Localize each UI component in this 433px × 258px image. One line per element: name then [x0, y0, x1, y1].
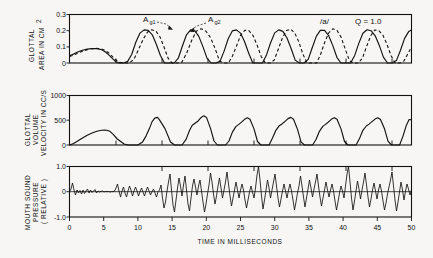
mid-ylabel-line2: VOLUME: [32, 114, 39, 145]
xtick-45: 45: [373, 224, 381, 231]
bottom-panel-ylabel: MOUTH SOUND PRESSURE ( RELATIVE ): [24, 175, 48, 230]
condition-vowel: /a/: [320, 17, 330, 26]
ag2-subscript: g2: [215, 19, 221, 25]
top-ylabel-line2: AREA IN CM: [38, 27, 45, 70]
top-ytick-0.3: 0.3: [56, 11, 66, 18]
bot-ytick-0: 0: [62, 188, 66, 195]
xtick-15: 15: [168, 224, 176, 231]
xtick-10: 10: [134, 224, 142, 231]
mid-ytick-1000: 1000: [50, 92, 66, 99]
xtick-40: 40: [339, 224, 347, 231]
top-ylabel-exponent: 2: [35, 19, 42, 23]
bottom-panel-xtick-labels: 0 5 10 15 20 25 30 35 40 45 50: [68, 224, 416, 231]
top-panel-ylabel: GLOTTAL AREA IN CM 2: [28, 19, 45, 70]
figure-glottal-waveforms: GLOTTAL AREA IN CM 2 0.3 0.2 0.1 0: [0, 0, 433, 258]
xtick-5: 5: [102, 224, 106, 231]
bot-ylabel-line2: PRESSURE: [32, 182, 39, 222]
series-ug-curve: [70, 116, 412, 145]
bot-ytick--1.0: -1.0: [54, 214, 66, 221]
xtick-50: 50: [408, 224, 416, 231]
top-ytick-0.2: 0.2: [56, 27, 66, 34]
top-ytick-0.1: 0.1: [56, 43, 66, 50]
xtick-25: 25: [237, 224, 245, 231]
panel-glottal-area: GLOTTAL AREA IN CM 2 0.3 0.2 0.1 0: [0, 0, 433, 88]
annotation-ag1: A g1: [143, 15, 173, 30]
mid-ylabel-line3: VELOCITY IN CC/S: [40, 89, 47, 156]
annotation-ag2: A g2: [190, 15, 221, 32]
mid-ylabel-line1: GLOTTAL: [24, 113, 31, 146]
bottom-panel-period-ticks: [162, 167, 392, 172]
xtick-35: 35: [305, 224, 313, 231]
series-mouth-pressure-curve: [70, 167, 412, 213]
bot-ylabel-line3: ( RELATIVE ): [40, 179, 48, 225]
x-axis-title: TIME IN MILLISECONDS: [197, 238, 282, 245]
panel-glottal-volume-velocity: GLOTTAL VOLUME VELOCITY IN CC/S 1000 500…: [0, 88, 433, 160]
bottom-panel-xticks: [70, 217, 412, 221]
top-ytick-0: 0: [62, 60, 66, 67]
ag2-label: A: [208, 15, 214, 24]
xtick-30: 30: [271, 224, 279, 231]
ag1-label: A: [143, 15, 149, 24]
panel-mouth-sound-pressure: MOUTH SOUND PRESSURE ( RELATIVE ) 1.0 0 …: [0, 160, 433, 258]
bot-ytick-1.0: 1.0: [56, 163, 66, 170]
middle-panel-closure-ticks: [116, 141, 392, 146]
ag1-subscript: g1: [150, 19, 156, 25]
condition-q: Q = 1.0: [355, 17, 382, 26]
xtick-0: 0: [68, 224, 72, 231]
mid-ytick-0: 0: [62, 142, 66, 149]
middle-panel-ylabel: GLOTTAL VOLUME VELOCITY IN CC/S: [24, 89, 47, 156]
top-ylabel-line1: GLOTTAL: [28, 29, 35, 62]
mid-ytick-500: 500: [54, 117, 66, 124]
bot-ylabel-line1: MOUTH SOUND: [24, 175, 31, 230]
xtick-20: 20: [202, 224, 210, 231]
